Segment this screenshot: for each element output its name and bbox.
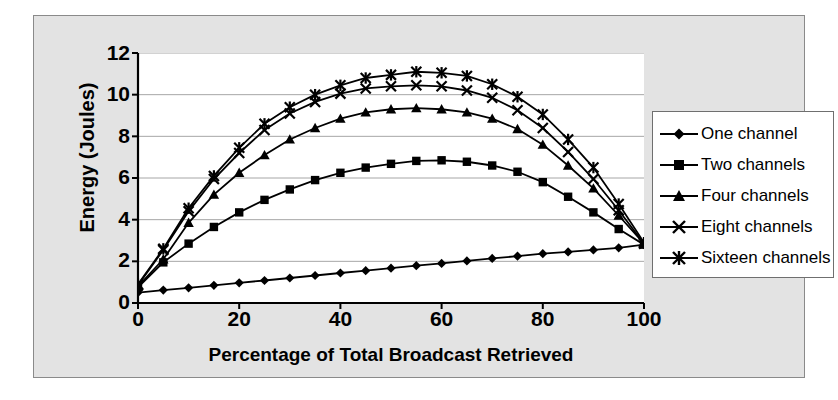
x-axis-tick-labels: 0 20 40 60 80 100 (138, 308, 644, 338)
legend-item[interactable]: One channel (653, 118, 833, 149)
data-point-square (539, 178, 547, 186)
data-point-diamond (437, 259, 446, 268)
data-point-diamond (235, 278, 244, 287)
y-axis-tick-labels: 12 10 8 6 4 2 0 (90, 16, 130, 316)
data-point-square (463, 158, 471, 166)
data-point-square (286, 185, 294, 193)
legend-label: Four channels (701, 186, 809, 206)
legend-marker-diamond-icon (659, 124, 699, 144)
data-point-x (563, 147, 573, 157)
data-point-triangle (538, 139, 548, 148)
data-point-square (362, 163, 370, 171)
data-point-star (260, 118, 270, 129)
data-point-star (234, 142, 244, 153)
data-point-diamond (159, 285, 168, 294)
data-point-square (336, 169, 344, 177)
legend-item[interactable]: Eight channels (653, 211, 833, 242)
data-point-star (563, 134, 573, 145)
data-point-square (412, 157, 420, 165)
data-point-square (235, 208, 243, 216)
data-point-triangle (285, 134, 295, 143)
x-axis-title: Percentage of Total Broadcast Retrieved (138, 344, 644, 366)
data-point-star (538, 109, 548, 120)
y-tick-label: 0 (96, 291, 130, 312)
data-point-diamond (285, 273, 294, 282)
data-point-star (335, 80, 345, 91)
x-tick-label: 0 (132, 308, 144, 329)
legend-label: Sixteen channels (701, 248, 830, 268)
data-point-square (564, 193, 572, 201)
y-tick-label: 8 (96, 125, 130, 146)
data-point-star (158, 243, 168, 254)
data-point-triangle (259, 150, 269, 159)
data-point-diamond (564, 247, 573, 256)
series-one-channel (138, 240, 644, 297)
y-tick-label: 12 (96, 42, 130, 63)
data-point-star (614, 198, 624, 209)
data-point-star (285, 101, 295, 112)
data-point-diamond (260, 276, 269, 285)
data-point-square (184, 239, 192, 247)
data-point-square (437, 156, 445, 164)
data-point-square (589, 208, 597, 216)
legend-item[interactable]: Sixteen channels (653, 242, 833, 273)
data-series-layer (138, 66, 644, 297)
data-point-diamond (538, 249, 547, 258)
data-point-triangle (512, 124, 522, 133)
data-point-x (513, 105, 523, 115)
legend-label: Two channels (701, 155, 805, 175)
data-point-square (311, 176, 319, 184)
chart-frame: Energy (Joules) 12 10 8 6 4 2 0 0 20 40 (33, 15, 805, 378)
legend-label: One channel (701, 124, 797, 144)
data-point-diamond (412, 261, 421, 270)
y-tick-label: 10 (96, 83, 130, 104)
y-tick-label: 4 (96, 208, 130, 229)
data-point-diamond (513, 252, 522, 261)
chart-container: Energy (Joules) 12 10 8 6 4 2 0 0 20 40 (0, 0, 838, 400)
data-point-diamond (462, 256, 471, 265)
data-point-diamond (589, 245, 598, 254)
y-tick-label: 2 (96, 249, 130, 270)
data-point-diamond (311, 271, 320, 280)
x-tick-label: 100 (626, 308, 661, 329)
data-point-diamond (184, 283, 193, 292)
legend-item[interactable]: Four channels (653, 180, 833, 211)
data-point-diamond (386, 264, 395, 273)
data-point-square (210, 223, 218, 231)
x-tick-label: 60 (430, 308, 453, 329)
legend-marker-triangle-icon (659, 186, 699, 206)
legend-marker-x-icon (659, 217, 699, 237)
data-point-triangle (234, 168, 244, 177)
y-tick-label: 6 (96, 166, 130, 187)
legend-label: Eight channels (701, 217, 813, 237)
data-point-diamond (209, 281, 218, 290)
plot-area (138, 53, 644, 303)
legend-marker-star-icon (659, 248, 699, 268)
data-point-x (588, 174, 598, 184)
data-point-square (615, 225, 623, 233)
data-point-diamond (614, 243, 623, 252)
data-point-x (538, 123, 548, 133)
data-point-diamond (336, 268, 345, 277)
data-point-square (387, 160, 395, 168)
chart-legend: One channel Two channels Four channels (652, 111, 834, 278)
x-tick-label: 80 (531, 308, 554, 329)
data-point-star (513, 91, 523, 102)
x-tick-label: 20 (228, 308, 251, 329)
plot-svg (138, 53, 644, 303)
x-tick-label: 40 (329, 308, 352, 329)
data-point-square (260, 196, 268, 204)
legend-item[interactable]: Two channels (653, 149, 833, 180)
data-point-square (513, 168, 521, 176)
legend-marker-square-icon (659, 155, 699, 175)
data-point-star (487, 79, 497, 90)
data-point-square (488, 161, 496, 169)
data-point-star (588, 162, 598, 173)
data-point-diamond (361, 266, 370, 275)
